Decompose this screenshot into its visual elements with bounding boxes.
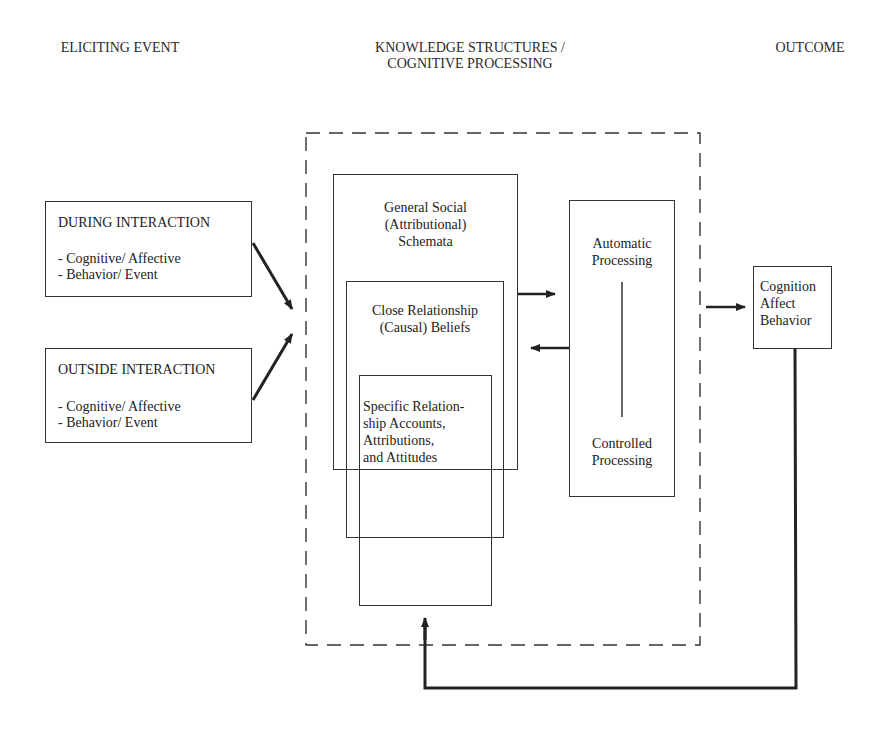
feedback-loop-line [425, 349, 796, 688]
knowledge-structures-frame [306, 133, 700, 645]
during-arrow [253, 243, 292, 309]
outside-arrow [253, 334, 292, 400]
diagram-connectors [0, 0, 874, 733]
